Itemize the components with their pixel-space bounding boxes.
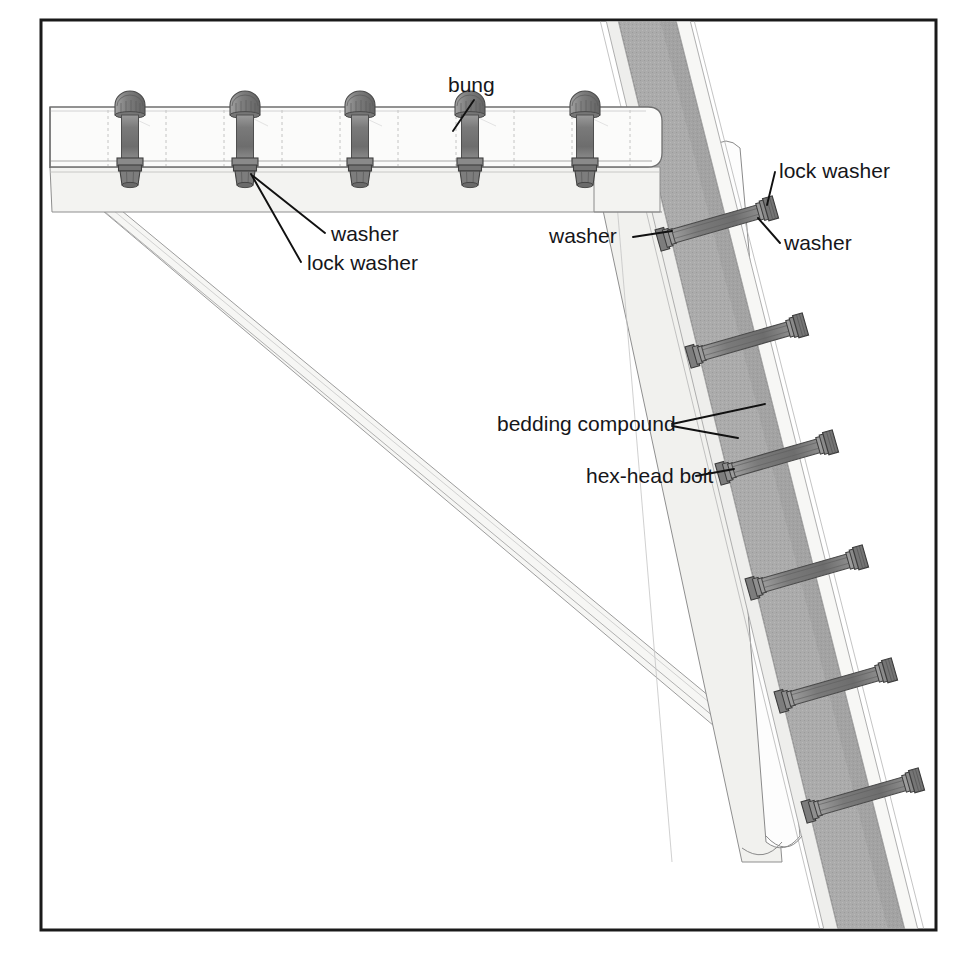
- assembly-illustration-canvas: bung washer lock washer lock washer wash…: [0, 0, 965, 971]
- label-bedding-compound: bedding compound: [497, 412, 676, 435]
- label-hex-head-bolt: hex-head bolt: [586, 464, 713, 487]
- label-lock-washer-right: lock washer: [779, 159, 890, 182]
- technical-diagram: bung washer lock washer lock washer wash…: [0, 0, 965, 971]
- label-bung: bung: [448, 73, 495, 96]
- label-washer-left: washer: [330, 222, 399, 245]
- label-washer-mid: washer: [548, 224, 617, 247]
- label-lock-washer-left: lock washer: [307, 251, 418, 274]
- label-washer-right: washer: [783, 231, 852, 254]
